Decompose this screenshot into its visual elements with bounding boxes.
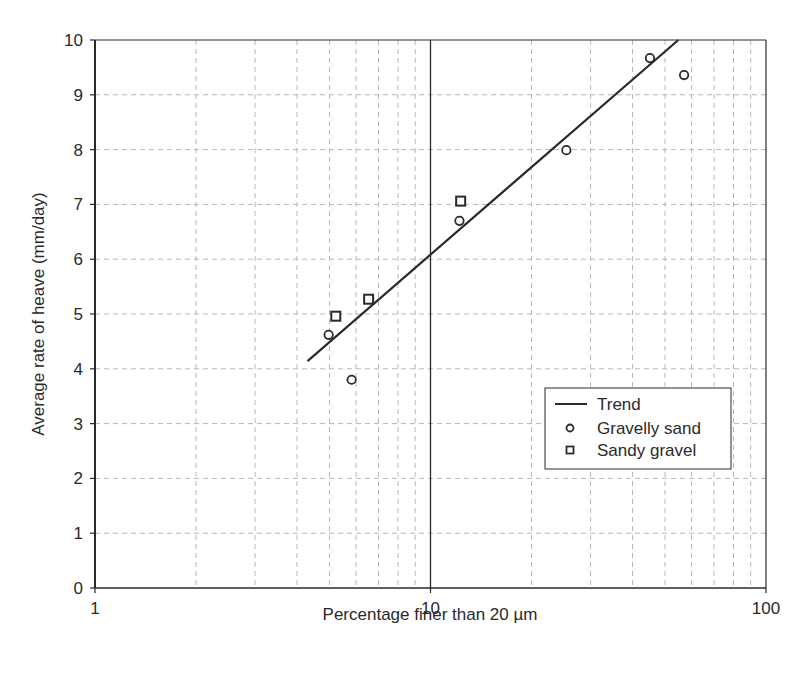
y-tick-label: 8 xyxy=(74,141,83,160)
circle-marker xyxy=(562,146,570,154)
square-marker xyxy=(331,312,340,321)
circle-marker xyxy=(455,217,463,225)
y-tick-label: 2 xyxy=(74,469,83,488)
legend-label-gravelly-sand: Gravelly sand xyxy=(597,419,701,438)
square-marker xyxy=(364,295,373,304)
data-series xyxy=(308,40,689,384)
legend: Trend Gravelly sand Sandy gravel xyxy=(545,388,731,469)
circle-marker xyxy=(680,71,688,79)
x-tick-label: 100 xyxy=(752,599,780,618)
y-tick-label: 5 xyxy=(74,305,83,324)
legend-label-trend: Trend xyxy=(597,395,641,414)
circle-marker xyxy=(347,376,355,384)
y-tick-label: 10 xyxy=(64,31,83,50)
trend-line xyxy=(308,40,679,361)
y-tick-label: 6 xyxy=(74,250,83,269)
y-tick-label: 1 xyxy=(74,524,83,543)
y-tick-label: 0 xyxy=(74,579,83,598)
y-tick-label: 9 xyxy=(74,86,83,105)
circle-marker xyxy=(646,54,654,62)
y-tick-label: 3 xyxy=(74,415,83,434)
y-axis-title: Average rate of heave (mm/day) xyxy=(29,192,48,435)
series-trend xyxy=(308,40,679,361)
chart: 012345678910110100 Percentage finer than… xyxy=(0,0,811,684)
square-marker xyxy=(456,197,465,206)
axis-ticks: 012345678910110100 xyxy=(64,31,780,618)
legend-label-sandy-gravel: Sandy gravel xyxy=(597,441,696,460)
grid-lines xyxy=(95,40,766,588)
x-axis-title: Percentage finer than 20 µm xyxy=(323,605,538,624)
y-tick-label: 7 xyxy=(74,195,83,214)
y-tick-label: 4 xyxy=(74,360,83,379)
x-tick-label: 1 xyxy=(90,599,99,618)
circle-marker xyxy=(324,331,332,339)
